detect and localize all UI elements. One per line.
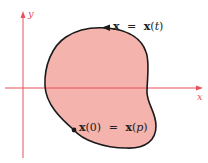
x-axis-label: x <box>197 91 203 102</box>
y-axis-label: y <box>27 8 34 19</box>
point-label-eq: = <box>109 121 118 134</box>
start-point-marker <box>72 128 77 133</box>
curve-label-close: ) <box>159 20 163 33</box>
point-label-close2: ) <box>143 121 147 134</box>
curve-label-vec: x <box>113 20 120 33</box>
point-label-arg1: 0 <box>90 121 97 134</box>
point-label-param2: p <box>136 121 143 134</box>
x-axis-arrow-icon <box>196 86 203 91</box>
point-label-close1: ) <box>97 121 101 134</box>
curve-label-eq: = <box>127 20 136 33</box>
start-point-label: x(0) = x(p) <box>79 121 148 134</box>
curve-label: x = x(t) <box>113 20 163 33</box>
y-axis-arrow-icon <box>21 11 26 18</box>
parametric-curve-diagram: y x x = x(t) x(0) = x(p) <box>0 0 208 163</box>
